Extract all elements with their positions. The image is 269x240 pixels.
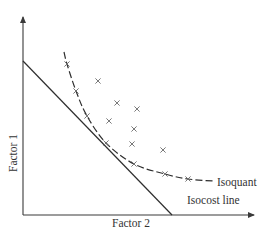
- cross-marker-icon: [131, 126, 136, 131]
- cross-marker-icon: [131, 161, 136, 166]
- cross-marker-icon: [95, 78, 100, 83]
- cross-marker-icon: [129, 141, 134, 146]
- cross-marker-icon: [114, 100, 119, 105]
- cross-marker-icon: [106, 118, 111, 123]
- isocost-line: [23, 61, 172, 215]
- isoquant-diagram: Factor 1 Factor 2 Isoquant Isocost line: [0, 0, 269, 240]
- isoquant-label: Isoquant: [217, 176, 257, 189]
- production-points: [64, 61, 190, 181]
- y-axis-label: Factor 1: [7, 134, 19, 172]
- cross-marker-icon: [103, 140, 108, 145]
- cross-marker-icon: [73, 88, 78, 93]
- cross-marker-icon: [134, 106, 139, 111]
- cross-marker-icon: [84, 113, 89, 118]
- x-axis-label: Factor 2: [112, 217, 150, 229]
- cross-marker-icon: [160, 147, 165, 152]
- isocost-label: Isocost line: [187, 194, 240, 206]
